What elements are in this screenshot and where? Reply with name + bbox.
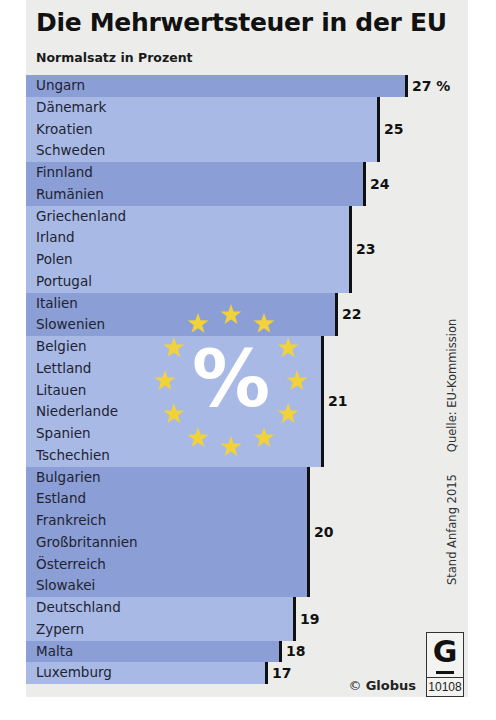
country-label: Irland — [26, 227, 468, 249]
country-label: Ungarn — [26, 75, 468, 97]
bar-group: 27 %Ungarn — [26, 75, 468, 97]
country-label: Polen — [26, 249, 468, 271]
country-label: Rumänien — [26, 184, 468, 206]
country-label: Großbritannien — [26, 532, 468, 554]
chart-title: Die Mehrwertsteuer in der EU — [36, 8, 447, 37]
country-label: Malta — [26, 641, 468, 663]
country-label: Italien — [26, 293, 468, 315]
country-label: Spanien — [26, 423, 468, 445]
chart-subtitle: Normalsatz in Prozent — [36, 50, 193, 65]
country-label: Schweden — [26, 140, 468, 162]
country-label: Dänemark — [26, 97, 468, 119]
country-label: Belgien — [26, 336, 468, 358]
bar-group: 21BelgienLettlandLitauenNiederlandeSpani… — [26, 336, 468, 467]
country-label: Slowenien — [26, 314, 468, 336]
country-label: Tschechien — [26, 445, 468, 467]
bar-group: 22ItalienSlowenien — [26, 293, 468, 337]
bar-group: 17Luxemburg — [26, 662, 468, 684]
country-label: Niederlande — [26, 401, 468, 423]
country-label: Griechenland — [26, 206, 468, 228]
bar-group: 23GriechenlandIrlandPolenPortugal — [26, 206, 468, 293]
bar-groups: 27 %Ungarn25DänemarkKroatienSchweden24Fi… — [26, 75, 468, 684]
chart-panel: Die Mehrwertsteuer in der EU Normalsatz … — [26, 0, 468, 697]
country-label: Slowakei — [26, 575, 468, 597]
country-label: Litauen — [26, 380, 468, 402]
bar-group: 19DeutschlandZypern — [26, 597, 468, 641]
country-label: Portugal — [26, 271, 468, 293]
country-label: Lettland — [26, 358, 468, 380]
country-label: Bulgarien — [26, 467, 468, 489]
country-label: Österreich — [26, 554, 468, 576]
bar-group: 25DänemarkKroatienSchweden — [26, 97, 468, 162]
bar-group: 24FinnlandRumänien — [26, 162, 468, 206]
country-label: Luxemburg — [26, 662, 468, 684]
country-label: Finnland — [26, 162, 468, 184]
country-label: Estland — [26, 488, 468, 510]
bar-group: 20BulgarienEstlandFrankreichGroßbritanni… — [26, 467, 468, 598]
country-label: Zypern — [26, 619, 468, 641]
country-label: Kroatien — [26, 119, 468, 141]
country-label: Deutschland — [26, 597, 468, 619]
bar-group: 18Malta — [26, 641, 468, 663]
country-label: Frankreich — [26, 510, 468, 532]
